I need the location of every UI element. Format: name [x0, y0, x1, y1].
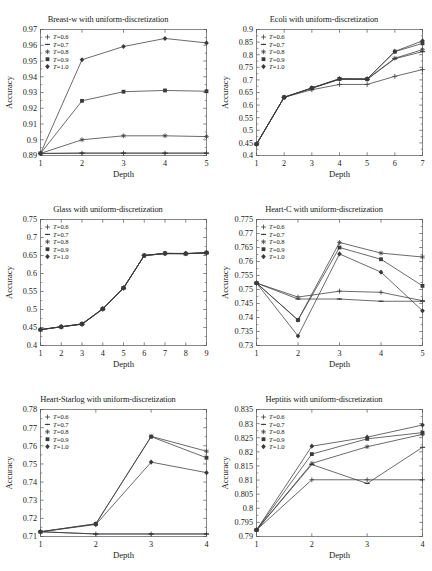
y-tick-label: 0.77: [239, 229, 253, 238]
y-axis-label: Accuracy: [220, 456, 230, 490]
y-tick-label: 0.4: [27, 341, 37, 350]
chart-panel-heart-starlog: Heart-Starlog with uniform-discretizatio…: [0, 380, 216, 571]
chart-panel-ecoli: Ecoli with uniform-discretization 0.40.4…: [216, 0, 432, 190]
x-tick-label: 3: [337, 349, 341, 358]
y-tick-label: 0.775: [235, 215, 253, 224]
y-tick-label: 0.83: [239, 420, 253, 429]
x-tick-label: 3: [310, 159, 314, 168]
y-tick-label: 0.55: [239, 114, 253, 123]
chart-heptitis: 0.790.7950.80.8050.810.8150.820.8250.830…: [216, 380, 432, 571]
legend-item-label: T=0.6: [269, 33, 285, 40]
legend-item-label: T=0.7: [269, 231, 285, 238]
x-tick-label: 1: [254, 159, 258, 168]
y-tick-label: 0.9: [243, 25, 253, 34]
x-tick-label: 5: [204, 159, 208, 168]
x-tick-label: 4: [379, 349, 383, 358]
y-tick-label: 0.73: [239, 341, 253, 350]
legend-item-label: T=1.0: [53, 63, 69, 70]
x-tick-label: 4: [204, 540, 208, 549]
legend-item-label: T=0.7: [269, 41, 285, 48]
y-tick-label: 0.65: [239, 88, 253, 97]
chart-breast-w: 0.890.90.910.920.930.940.950.960.9712345…: [0, 0, 216, 190]
y-tick-label: 0.85: [239, 38, 253, 47]
legend-item-label: T=0.9: [53, 246, 69, 253]
x-tick-label: 2: [296, 349, 300, 358]
x-tick-label: 3: [365, 540, 369, 549]
series-t10: [38, 250, 209, 332]
legend-item-label: T=1.0: [269, 443, 285, 450]
y-tick-label: 0.76: [239, 257, 253, 266]
x-tick-label: 3: [80, 349, 84, 358]
series-t07: [38, 531, 209, 535]
chart-heart-starlog: 0.710.720.730.740.750.760.770.781234Dept…: [0, 380, 216, 571]
chart-glass: 0.40.450.50.550.60.650.70.75123456789Dep…: [0, 190, 216, 380]
chart-panel-heart-c: Heart-C with uniform-discretization 0.73…: [216, 190, 432, 380]
chart-panel-heptitis: Heptitis with uniform-discretization 0.7…: [216, 380, 432, 571]
x-tick-label: 1: [38, 159, 42, 168]
x-tick-label: 2: [80, 159, 84, 168]
y-tick-label: 0.835: [235, 405, 253, 414]
y-tick-label: 0.805: [235, 490, 253, 499]
y-tick-label: 0.6: [243, 101, 253, 110]
legend-item-label: T=1.0: [53, 253, 69, 260]
legend-item-label: T=0.9: [269, 56, 285, 63]
y-tick-label: 0.9: [27, 136, 37, 145]
legend: T=0.6T=0.7T=0.8T=0.9T=1.0: [261, 223, 285, 260]
x-tick-label: 5: [121, 349, 125, 358]
x-axis-label: Depth: [113, 169, 135, 179]
legend-item-label: T=0.9: [53, 436, 69, 443]
y-tick-label: 0.6: [27, 269, 37, 278]
y-tick-label: 0.745: [235, 299, 253, 308]
y-axis-label: Accuracy: [220, 265, 230, 299]
x-axis-label: Depth: [329, 359, 351, 369]
x-tick-label: 4: [337, 159, 341, 168]
y-tick-label: 0.4: [243, 151, 253, 160]
legend-item-label: T=0.9: [53, 56, 69, 63]
y-tick-label: 0.735: [235, 327, 253, 336]
x-tick-label: 2: [282, 159, 286, 168]
legend-item-label: T=0.8: [53, 428, 69, 435]
x-tick-label: 2: [94, 540, 98, 549]
y-tick-label: 0.71: [23, 532, 37, 541]
x-tick-label: 8: [184, 349, 188, 358]
y-tick-label: 0.79: [239, 532, 253, 541]
chart-panel-glass: Glass with uniform-discretization 0.40.4…: [0, 190, 216, 380]
x-axis-label: Depth: [113, 359, 135, 369]
y-tick-label: 0.8: [243, 504, 253, 513]
y-tick-label: 0.97: [23, 25, 37, 34]
series-t10: [38, 460, 209, 535]
legend: T=0.6T=0.7T=0.8T=0.9T=1.0: [45, 33, 69, 70]
x-tick-label: 5: [420, 349, 424, 358]
legend-item-label: T=1.0: [269, 253, 285, 260]
y-tick-label: 0.92: [23, 104, 37, 113]
y-tick-label: 0.815: [235, 462, 253, 471]
y-tick-label: 0.77: [23, 424, 37, 433]
y-tick-label: 0.96: [23, 41, 37, 50]
y-tick-label: 0.825: [235, 434, 253, 443]
x-tick-label: 4: [420, 540, 424, 549]
x-tick-label: 4: [163, 159, 167, 168]
legend-item-label: T=1.0: [269, 63, 285, 70]
x-tick-label: 7: [163, 349, 167, 358]
legend-item-label: T=0.6: [269, 223, 285, 230]
legend-item-label: T=0.9: [269, 246, 285, 253]
legend-item-label: T=0.8: [269, 428, 285, 435]
x-tick-label: 3: [149, 540, 153, 549]
y-tick-label: 0.95: [23, 57, 37, 66]
y-tick-label: 0.74: [239, 313, 253, 322]
y-tick-label: 0.8: [243, 51, 253, 60]
y-tick-label: 0.89: [23, 151, 37, 160]
series-t08: [38, 251, 209, 332]
x-tick-label: 3: [121, 159, 125, 168]
y-axis-label: Accuracy: [4, 265, 14, 299]
y-tick-label: 0.82: [239, 448, 253, 457]
legend: T=0.6T=0.7T=0.8T=0.9T=1.0: [261, 413, 285, 450]
y-tick-label: 0.5: [27, 305, 37, 314]
legend-item-label: T=0.8: [269, 238, 285, 245]
y-tick-label: 0.93: [23, 88, 37, 97]
chart-heart-c: 0.730.7350.740.7450.750.7550.760.7650.77…: [216, 190, 432, 380]
y-tick-label: 0.795: [235, 518, 253, 527]
legend-item-label: T=0.6: [53, 413, 69, 420]
series-t07: [38, 252, 209, 330]
y-tick-label: 0.78: [23, 405, 37, 414]
